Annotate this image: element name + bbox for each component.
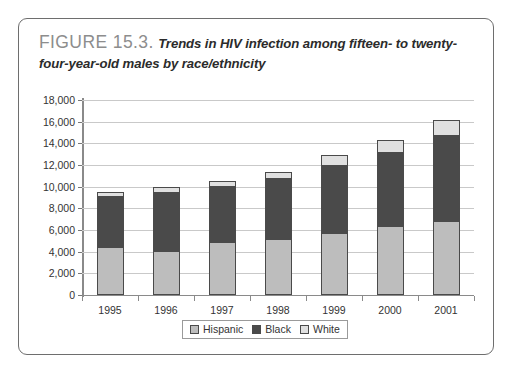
bar-segment-white-2001 [433,120,460,135]
y-tick-label: 10,000 [23,181,75,193]
bar-segment-black-1997 [209,186,236,242]
x-axis-line [82,295,474,296]
bar-segment-black-2001 [433,135,460,222]
legend-swatch-hispanic-icon [190,325,199,334]
chart-plot-area: 02,0004,0006,0008,00010,00012,00014,0001… [19,19,494,355]
legend-item-white[interactable]: White [300,323,340,335]
gridline [82,122,474,123]
legend-item-black[interactable]: Black [252,323,291,335]
y-tick-mark [78,187,82,188]
bar-1997[interactable] [209,181,236,295]
x-tick-mark [194,296,195,301]
bar-2000[interactable] [377,140,404,295]
bar-1996[interactable] [153,187,180,295]
y-tick-mark [78,252,82,253]
y-tick-label: 2,000 [23,267,75,279]
bar-1999[interactable] [321,155,348,295]
x-tick-label-1995: 1995 [85,304,135,316]
bar-segment-hispanic-1995 [97,247,124,295]
y-tick-mark [78,143,82,144]
x-tick-mark [306,296,307,301]
y-tick-label: 12,000 [23,159,75,171]
bar-segment-black-2000 [377,152,404,226]
x-tick-label-1998: 1998 [253,304,303,316]
y-tick-label: 6,000 [23,224,75,236]
x-tick-mark [250,296,251,301]
x-tick-label-1997: 1997 [197,304,247,316]
bar-segment-white-1999 [321,155,348,165]
y-tick-label: 16,000 [23,116,75,128]
y-tick-label: 14,000 [23,137,75,149]
y-tick-mark [78,100,82,101]
bar-segment-hispanic-1999 [321,233,348,295]
bar-1998[interactable] [265,172,292,296]
bar-segment-black-1998 [265,178,292,239]
x-tick-mark [362,296,363,301]
x-tick-label-2001: 2001 [421,304,471,316]
y-tick-mark [78,208,82,209]
x-tick-label-1996: 1996 [141,304,191,316]
y-tick-mark [78,230,82,231]
y-tick-label: 0 [23,289,75,301]
legend-item-hispanic[interactable]: Hispanic [190,323,243,335]
gridline [82,100,474,101]
y-tick-label: 4,000 [23,246,75,258]
bar-segment-black-1996 [153,192,180,251]
x-tick-label-1999: 1999 [309,304,359,316]
y-tick-mark [78,273,82,274]
bar-segment-hispanic-2000 [377,226,404,295]
bar-segment-white-2000 [377,140,404,152]
y-tick-label: 18,000 [23,94,75,106]
chart-legend: HispanicBlackWhite [182,320,348,339]
legend-label: White [313,323,340,335]
y-tick-mark [78,122,82,123]
figure-frame: FIGURE 15.3. Trends in HIV infection amo… [18,18,494,355]
bar-segment-hispanic-1996 [153,251,180,295]
y-tick-label: 8,000 [23,202,75,214]
legend-label: Hispanic [203,323,243,335]
legend-swatch-black-icon [252,325,261,334]
x-tick-mark [474,296,475,301]
y-axis-line [82,98,84,297]
x-tick-mark [418,296,419,301]
bar-segment-hispanic-1998 [265,239,292,295]
bar-segment-hispanic-1997 [209,242,236,295]
x-tick-label-2000: 2000 [365,304,415,316]
bar-segment-black-1999 [321,165,348,233]
y-tick-mark [78,165,82,166]
x-tick-mark [138,296,139,301]
legend-label: Black [265,323,291,335]
x-tick-mark [82,296,83,301]
bar-segment-black-1995 [97,196,124,247]
bar-1995[interactable] [97,192,124,295]
bar-segment-hispanic-2001 [433,221,460,295]
bar-2001[interactable] [433,120,460,296]
gridline [82,165,474,166]
legend-swatch-white-icon [300,325,309,334]
gridline [82,143,474,144]
